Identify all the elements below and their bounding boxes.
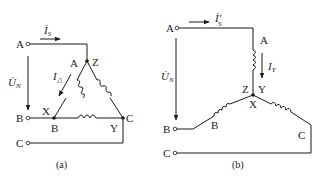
caption-b: (b)	[232, 159, 244, 171]
current-is-label: İS	[43, 24, 52, 38]
node-c	[121, 116, 125, 120]
node-c-label: C	[126, 112, 133, 124]
terminal-a-a	[26, 42, 30, 46]
terminal-c-a	[26, 141, 30, 145]
terminal-c-b	[173, 151, 177, 155]
current-iy-label: IY	[267, 60, 277, 74]
caption-a: (a)	[56, 159, 67, 171]
terminal-b-label-b: B	[163, 123, 170, 135]
delta-connection-diagram: A B C Z X C A B Y İS	[8, 24, 133, 171]
wire-c-b	[177, 112, 311, 153]
star-connection-diagram: A B C Z Y X A B C İ′S IY U̇N	[161, 12, 311, 171]
center-z-label: Z	[242, 83, 249, 95]
winding-a-label-b: A	[260, 34, 268, 46]
wire-b-b	[177, 116, 214, 129]
winding-b	[78, 115, 96, 118]
voltage-un-label: U̇N	[8, 76, 21, 90]
terminal-a-label: A	[16, 38, 24, 50]
node-x-label: X	[42, 105, 50, 117]
winding-a	[77, 80, 85, 98]
node-z-label: Z	[92, 56, 99, 68]
wire-a-b	[179, 28, 253, 50]
voltage-un-label-b: U̇N	[161, 70, 174, 84]
winding-y-label: Y	[110, 122, 118, 134]
center-x-label: X	[249, 98, 257, 110]
neutral-node	[251, 93, 255, 97]
winding-c	[97, 80, 111, 96]
terminal-c-label-b: C	[163, 147, 170, 159]
winding-b-b	[214, 103, 230, 116]
node-z	[85, 59, 89, 63]
current-is-prime-label: İ′S	[214, 12, 222, 28]
winding-b-label: B	[51, 122, 58, 134]
winding-a-label: A	[70, 57, 78, 69]
terminal-b-a	[26, 116, 30, 120]
winding-b-label-b: B	[211, 119, 218, 131]
node-b	[52, 116, 56, 120]
terminal-b-label: B	[16, 112, 23, 124]
terminal-a-b	[175, 26, 179, 30]
terminal-b-b	[173, 127, 177, 131]
wire-ab-bottom	[54, 98, 66, 118]
current-idelta-label: I△	[52, 70, 63, 84]
terminal-c-label: C	[16, 137, 23, 149]
center-y-label: Y	[258, 83, 266, 95]
wire-ab-top	[77, 61, 87, 80]
terminal-a-label-b: A	[166, 22, 174, 34]
wire-zc-bottom	[110, 98, 123, 118]
circuit-diagram: A B C Z X C A B Y İS	[0, 0, 322, 184]
winding-c-b	[271, 102, 291, 112]
wire-a	[30, 44, 87, 61]
winding-a-b	[253, 50, 256, 70]
winding-c-label-b: C	[298, 129, 305, 141]
